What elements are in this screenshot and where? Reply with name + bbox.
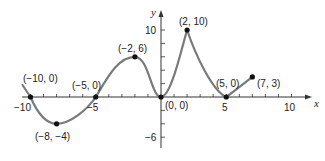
point-label: (2, 10) <box>179 16 208 27</box>
y-axis-arrow-icon <box>159 10 164 17</box>
point-label: (0, 0) <box>165 100 188 111</box>
x-tick-label: 5 <box>222 102 228 113</box>
point-label: (5, 0) <box>216 78 239 89</box>
point-label: (7, 3) <box>257 78 280 89</box>
function-graph: x y −10 −5 5 10 10 −6 (−10, 0) (−8, −4) … <box>0 0 325 161</box>
point-label: (−5, 0) <box>72 80 101 91</box>
data-point <box>54 121 59 126</box>
point-label: (−10, 0) <box>23 73 58 84</box>
y-axis-label: y <box>150 6 156 18</box>
y-tick-label: −6 <box>145 132 157 143</box>
y-tick-label: 10 <box>145 25 157 36</box>
data-point <box>93 94 98 99</box>
axis-labels: x y <box>150 6 319 109</box>
point-label: (−8, −4) <box>35 131 70 142</box>
x-tick-label: 10 <box>284 102 296 113</box>
x-tick-label: −10 <box>14 102 31 113</box>
data-point <box>250 74 255 79</box>
data-point <box>185 27 190 32</box>
data-point <box>224 94 229 99</box>
data-point <box>132 54 137 59</box>
x-tick-label: −5 <box>87 102 99 113</box>
data-point <box>158 94 163 99</box>
x-axis-arrow-icon <box>305 95 312 100</box>
y-ticks <box>161 30 165 137</box>
x-axis-label: x <box>313 97 319 109</box>
point-label: (−2, 6) <box>118 43 147 54</box>
data-point <box>28 94 33 99</box>
